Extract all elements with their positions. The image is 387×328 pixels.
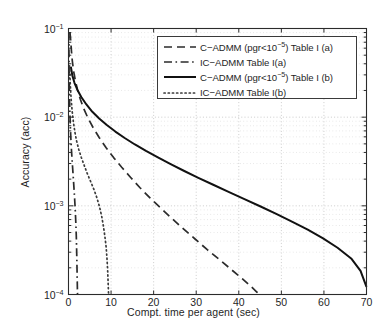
- y-tick-label-0: 10−1: [44, 23, 63, 35]
- legend-item-1[interactable]: C−ADMM (pgr<10−5) Table I (a): [158, 40, 356, 55]
- y-tick-label-2: 10−3: [44, 200, 63, 212]
- x-axis-label: Compt. time per agent (sec): [0, 306, 387, 318]
- figure-container: 010203040506070 10−110−210−310−4 Compt. …: [0, 0, 387, 328]
- y-axis-label: Accuracy (acc): [19, 117, 31, 188]
- chart-legend: C−ADMM (pgr<10−5) Table I (a)IC−ADMM Tab…: [157, 36, 357, 99]
- legend-line-sample-dotted-icon: [163, 87, 197, 99]
- series-line-4: [70, 66, 109, 295]
- legend-label-3: C−ADMM (pgr<10−5) Table I (b): [200, 72, 333, 83]
- y-axis-label-wrapper: Accuracy (acc): [15, 82, 33, 222]
- legend-label-4: IC−ADMM Table I(b): [200, 87, 286, 98]
- legend-item-4[interactable]: IC−ADMM Table I(b): [158, 85, 356, 100]
- legend-label-2: IC−ADMM Table I(a): [200, 57, 286, 68]
- legend-line-sample-dashed-icon: [163, 41, 197, 53]
- legend-item-2[interactable]: IC−ADMM Table I(a): [158, 55, 356, 70]
- legend-label-1: C−ADMM (pgr<10−5) Table I (a): [200, 42, 333, 53]
- legend-line-sample-dashdot-icon: [163, 56, 197, 68]
- legend-line-sample-solid-icon: [163, 71, 197, 83]
- legend-item-3[interactable]: C−ADMM (pgr<10−5) Table I (b): [158, 70, 356, 85]
- y-tick-label-1: 10−2: [44, 111, 63, 123]
- y-tick-label-3: 10−4: [44, 289, 63, 301]
